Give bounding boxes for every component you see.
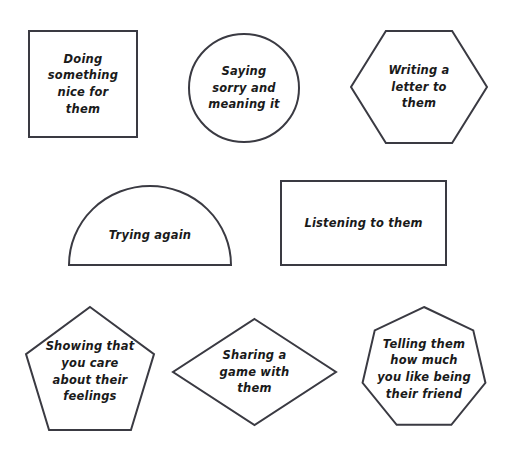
shape-card-square[interactable]: Doing something nice for them [28,30,138,138]
shape-card-semicircle[interactable]: Trying again [68,185,232,266]
shape-card-diamond[interactable]: Sharing a game with them [172,318,337,426]
hexagon-icon [350,30,488,144]
shape-card-hexagon[interactable]: Writing a letter to them [350,30,488,144]
shape-card-heptagon[interactable]: Telling them how much you like being the… [360,306,488,432]
worksheet-canvas: Doing something nice for them Saying sor… [0,0,505,460]
shape-card-circle[interactable]: Saying sorry and meaning it [188,33,300,143]
square-icon [28,30,138,138]
circle-icon [188,33,300,143]
pentagon-icon [25,306,155,431]
semicircle-icon [68,185,232,266]
heptagon-icon [360,306,488,432]
diamond-icon [172,318,337,426]
shape-card-rectangle[interactable]: Listening to them [280,180,447,266]
rectangle-icon [280,180,447,266]
shape-card-pentagon[interactable]: Showing that you care about their feelin… [25,306,155,431]
